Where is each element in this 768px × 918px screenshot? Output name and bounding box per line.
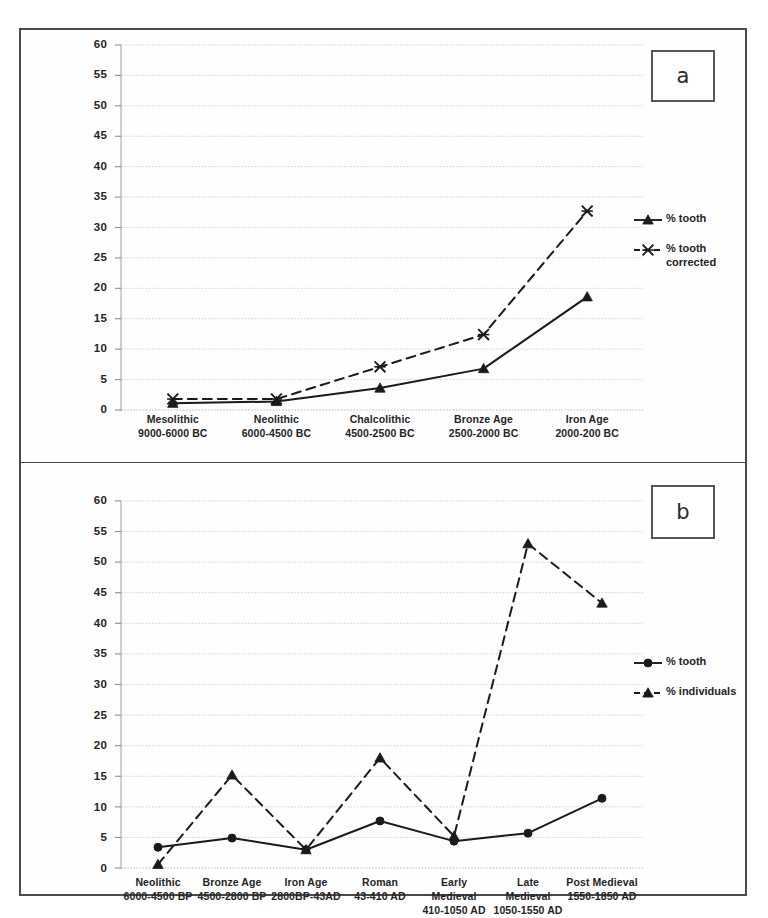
chart-legend-a: % tooth% tooth corrected bbox=[633, 212, 740, 285]
y-tick-label: 35 bbox=[77, 191, 107, 203]
legend-label: % tooth bbox=[666, 655, 706, 669]
y-tick-label: 30 bbox=[77, 222, 107, 234]
x-tick-label-line: Bronze Age bbox=[454, 413, 513, 425]
y-tick-label: 50 bbox=[77, 556, 107, 568]
y-tick-label: 35 bbox=[77, 648, 107, 660]
y-tick-label: 5 bbox=[77, 832, 107, 844]
x-tick-label-line: Early bbox=[441, 876, 467, 888]
legend-label: % tooth bbox=[666, 212, 706, 226]
x-tick-label-line: 410-1050 AD bbox=[413, 903, 495, 917]
x-tick-label-line: Chalcolithic bbox=[350, 413, 411, 425]
x-tick-label-line: 6000-4500 BP bbox=[117, 889, 199, 903]
x-tick-label: LateMedieval1050-1550 AD bbox=[487, 875, 569, 918]
y-tick-label: 25 bbox=[77, 252, 107, 264]
y-tick-label: 55 bbox=[77, 526, 107, 538]
legend-item[interactable]: % tooth bbox=[633, 212, 740, 226]
legend-marker-cross-icon bbox=[633, 243, 663, 255]
y-tick-label: 10 bbox=[77, 802, 107, 814]
x-tick-label-line: Late bbox=[517, 876, 539, 888]
legend-marker-circle-icon bbox=[633, 656, 663, 668]
x-tick-label: Bronze Age4500-2800 BP bbox=[191, 875, 273, 903]
x-tick-label: Neolithic6000-4500 BC bbox=[221, 412, 333, 440]
x-tick-label-line: 9000-6000 BC bbox=[117, 426, 229, 440]
y-tick-label: 15 bbox=[77, 771, 107, 783]
x-tick-label-line: Neolithic bbox=[135, 876, 180, 888]
y-tick-label: 40 bbox=[77, 618, 107, 630]
y-tick-label: 0 bbox=[77, 863, 107, 875]
x-tick-label: Iron Age2800BP-43AD bbox=[265, 875, 347, 903]
y-tick-label: 60 bbox=[77, 495, 107, 507]
x-tick-label: Neolithic6000-4500 BP bbox=[117, 875, 199, 903]
x-tick-label-line: Bronze Age bbox=[203, 876, 262, 888]
x-tick-label: Mesolithic9000-6000 BC bbox=[117, 412, 229, 440]
chart-panel-b: 051015202530354045505560 Neolithic6000-4… bbox=[21, 462, 745, 896]
y-tick-label: 25 bbox=[77, 710, 107, 722]
y-tick-label: 45 bbox=[77, 130, 107, 142]
y-tick-label: 40 bbox=[77, 161, 107, 173]
x-tick-label-line: 1550-1850 AD bbox=[561, 889, 643, 903]
chart-legend-b: % tooth% individuals bbox=[633, 655, 736, 715]
legend-marker-triangle-icon bbox=[633, 686, 663, 698]
x-tick-label: Post Medieval1550-1850 AD bbox=[561, 875, 643, 903]
x-tick-label-line: Mesolithic bbox=[147, 413, 199, 425]
legend-label: % tooth corrected bbox=[666, 242, 740, 270]
x-tick-label: Chalcolithic4500-2500 BC bbox=[324, 412, 436, 440]
x-tick-label: Iron Age2000-200 BC bbox=[531, 412, 643, 440]
x-tick-label-line: 1050-1550 AD bbox=[487, 903, 569, 917]
legend-item[interactable]: % tooth corrected bbox=[633, 242, 740, 270]
x-tick-label: Roman43-410 AD bbox=[339, 875, 421, 903]
legend-marker-triangle-icon bbox=[633, 213, 663, 225]
x-tick-label-line: 2500-2000 BC bbox=[428, 426, 540, 440]
x-tick-label-line: 4500-2500 BC bbox=[324, 426, 436, 440]
y-tick-label: 55 bbox=[77, 69, 107, 81]
y-tick-label: 30 bbox=[77, 679, 107, 691]
y-tick-label: 45 bbox=[77, 587, 107, 599]
y-tick-label: 10 bbox=[77, 343, 107, 355]
legend-item[interactable]: % individuals bbox=[633, 685, 736, 699]
x-tick-label-line: Roman bbox=[362, 876, 398, 888]
x-tick-label-line: Medieval bbox=[413, 889, 495, 903]
y-tick-label: 20 bbox=[77, 740, 107, 752]
x-tick-label: Bronze Age2500-2000 BC bbox=[428, 412, 540, 440]
y-tick-label: 50 bbox=[77, 100, 107, 112]
x-tick-label-line: 43-410 AD bbox=[339, 889, 421, 903]
x-axis-labels-b: Neolithic6000-4500 BPBronze Age4500-2800… bbox=[21, 875, 745, 918]
x-tick-label-line: Medieval bbox=[487, 889, 569, 903]
x-tick-label-line: Neolithic bbox=[254, 413, 299, 425]
y-tick-label: 20 bbox=[77, 282, 107, 294]
y-tick-label: 15 bbox=[77, 313, 107, 325]
chart-panel-a: 051015202530354045505560 Mesolithic9000-… bbox=[21, 30, 745, 462]
x-tick-label-line: 2000-200 BC bbox=[531, 426, 643, 440]
x-tick-label-line: Iron Age bbox=[566, 413, 609, 425]
figure-frame: 051015202530354045505560 Mesolithic9000-… bbox=[19, 28, 747, 896]
x-tick-label-line: 6000-4500 BC bbox=[221, 426, 333, 440]
x-tick-label-line: Post Medieval bbox=[566, 876, 637, 888]
panel-letter-b: b bbox=[651, 485, 715, 539]
x-tick-label: EarlyMedieval410-1050 AD bbox=[413, 875, 495, 918]
y-tick-label: 5 bbox=[77, 374, 107, 386]
legend-label: % individuals bbox=[666, 685, 736, 699]
x-tick-label-line: 4500-2800 BP bbox=[191, 889, 273, 903]
x-tick-label-line: Iron Age bbox=[285, 876, 328, 888]
panel-letter-a: a bbox=[651, 50, 715, 102]
legend-item[interactable]: % tooth bbox=[633, 655, 736, 669]
x-tick-label-line: 2800BP-43AD bbox=[265, 889, 347, 903]
y-tick-label: 60 bbox=[77, 39, 107, 51]
